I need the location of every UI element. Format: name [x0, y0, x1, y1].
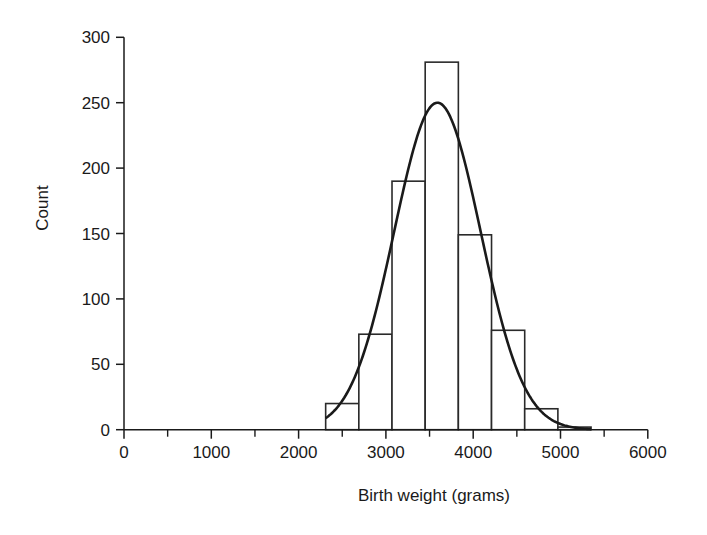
y-tick-label: 300 [82, 28, 110, 47]
y-tick-label: 250 [82, 94, 110, 113]
chart-canvas: 050100150200250300 010002000300040005000… [0, 0, 707, 535]
x-axis-ticks: 0100020003000400050006000 [119, 430, 666, 462]
x-tick-label: 6000 [629, 443, 667, 462]
x-tick-label: 3000 [367, 443, 405, 462]
histogram-bar [326, 404, 359, 430]
x-axis-title: Birth weight (grams) [358, 486, 510, 505]
y-tick-label: 150 [82, 225, 110, 244]
y-tick-label: 200 [82, 159, 110, 178]
y-axis-title: Count [33, 185, 52, 231]
y-tick-label: 0 [101, 421, 110, 440]
x-tick-label: 0 [119, 443, 128, 462]
histogram-bar [359, 334, 392, 429]
histogram-bars [326, 62, 591, 430]
histogram-chart: 050100150200250300 010002000300040005000… [0, 0, 707, 535]
x-tick-label: 2000 [280, 443, 318, 462]
x-tick-label: 4000 [454, 443, 492, 462]
histogram-bar [425, 62, 458, 430]
y-tick-label: 100 [82, 290, 110, 309]
y-axis-ticks: 050100150200250300 [82, 28, 124, 439]
y-tick-label: 50 [91, 355, 110, 374]
x-tick-label: 5000 [542, 443, 580, 462]
x-tick-label: 1000 [192, 443, 230, 462]
